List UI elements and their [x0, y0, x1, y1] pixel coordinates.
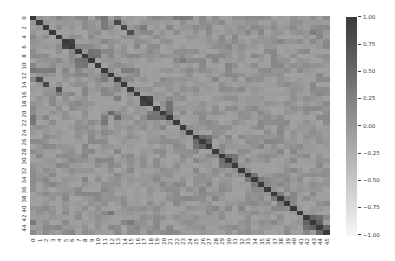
x-tick-label: 13 — [115, 238, 121, 245]
x-tick-label: 45 — [324, 238, 330, 245]
x-tick-label: 6 — [69, 238, 75, 242]
x-tick-label: 1 — [37, 238, 43, 242]
x-tick-label: 38 — [278, 238, 284, 245]
x-tick-label: 42 — [304, 238, 310, 245]
x-tick-label: 2 — [43, 238, 49, 242]
x-tick-label: 24 — [187, 238, 193, 245]
x-tick-label: 28 — [213, 238, 219, 245]
x-tick-label: 30 — [226, 238, 232, 245]
x-tick-label: 22 — [174, 238, 180, 245]
x-tick-label: 5 — [63, 238, 69, 242]
x-tick-label: 8 — [82, 238, 88, 242]
x-tick-label: 23 — [180, 238, 186, 245]
x-tick-label: 44 — [317, 238, 323, 245]
x-tick-label: 43 — [311, 238, 317, 245]
x-tick-label: 4 — [56, 238, 62, 242]
x-tick-label: 16 — [135, 238, 141, 245]
x-tick-label: 40 — [291, 238, 297, 245]
x-tick-label: 27 — [206, 238, 212, 245]
x-tick-label: 35 — [259, 238, 265, 245]
colorbar-tick-label: −0.75 — [358, 204, 380, 210]
colorbar-tick-label: 1.00 — [358, 14, 375, 20]
heatmap-canvas — [30, 16, 330, 235]
colorbar-tick-label: 0.00 — [358, 123, 375, 129]
x-tick-label: 33 — [245, 238, 251, 245]
colorbar-tick-label: −0.25 — [358, 150, 380, 156]
x-tick-label: 7 — [76, 238, 82, 242]
x-tick-label: 19 — [154, 238, 160, 245]
colorbar-tick-label: −0.50 — [358, 177, 380, 183]
x-tick-label: 21 — [167, 238, 173, 245]
x-tick-label: 15 — [128, 238, 134, 245]
x-tick-label: 31 — [232, 238, 238, 245]
colorbar-tick-label: 0.25 — [358, 95, 375, 101]
colorbar-tick-label: 0.75 — [358, 41, 375, 47]
x-tick-label: 12 — [109, 238, 115, 245]
x-tick-label: 26 — [200, 238, 206, 245]
x-tick-label: 36 — [265, 238, 271, 245]
x-tick-label: 39 — [285, 238, 291, 245]
x-tick-label: 17 — [141, 238, 147, 245]
x-tick-label: 10 — [95, 238, 101, 245]
x-tick-label: 3 — [50, 238, 56, 242]
x-tick-label: 18 — [148, 238, 154, 245]
x-tick-label: 25 — [193, 238, 199, 245]
x-tick-label: 37 — [272, 238, 278, 245]
x-tick-label: 41 — [298, 238, 304, 245]
colorbar-tick-label: 0.50 — [358, 68, 375, 74]
y-tick-label: 44 — [21, 221, 27, 235]
x-tick-label: 34 — [252, 238, 258, 245]
x-tick-label: 0 — [30, 238, 36, 242]
colorbar — [346, 17, 357, 236]
heatmap-plot-area — [30, 16, 330, 235]
x-tick-label: 11 — [102, 238, 108, 245]
x-tick-label: 29 — [219, 238, 225, 245]
x-tick-label: 20 — [161, 238, 167, 245]
colorbar-tick-label: −1.00 — [358, 232, 380, 238]
x-tick-label: 14 — [122, 238, 128, 245]
